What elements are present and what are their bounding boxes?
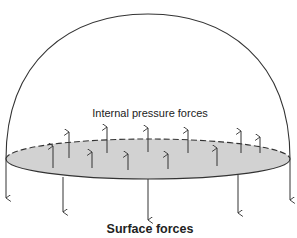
surface-forces-label: Surface forces (107, 222, 194, 236)
internal-pressure-label: Internal pressure forces (92, 107, 208, 119)
hemisphere-force-diagram: Internal pressure forces Surface forces (0, 0, 297, 238)
